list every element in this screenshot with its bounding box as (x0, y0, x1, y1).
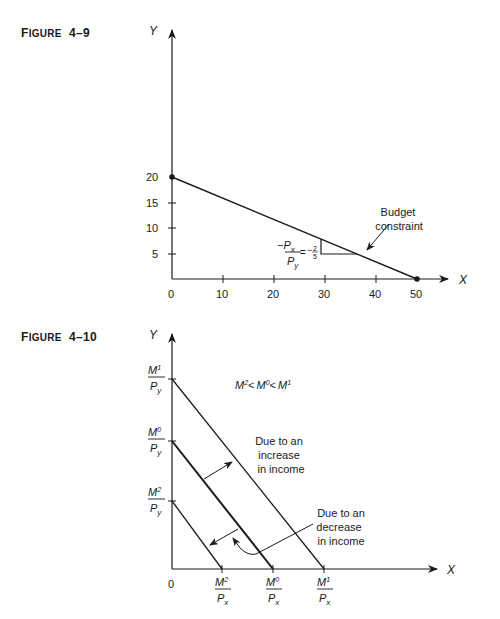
figures-canvas: Y X 20 15 10 5 0 10 20 30 40 50 (0, 0, 500, 619)
y-tick-10: 10 (146, 222, 158, 234)
origin-label: 0 (168, 578, 174, 590)
svg-text:Px: Px (319, 592, 331, 607)
budget-annotation-line1: Budget (381, 206, 416, 218)
svg-text:Py: Py (287, 255, 299, 270)
svg-text:2: 2 (313, 245, 317, 252)
svg-text:M0: M0 (148, 426, 161, 438)
svg-text:Py: Py (150, 442, 162, 457)
y-tick-15: 15 (146, 197, 158, 209)
svg-text:M1: M1 (317, 576, 330, 588)
budget-annotation-line2: constraint (375, 220, 423, 232)
svg-text:Py: Py (150, 502, 162, 517)
svg-text:=: = (300, 247, 306, 258)
svg-text:M1: M1 (148, 364, 161, 376)
x-intercept-m2: M2 Px (215, 576, 231, 607)
y-intercept-dot (169, 174, 175, 180)
budget-line-m2 (172, 501, 222, 569)
x-intercept-dot (414, 276, 420, 282)
y-intercept-m0: M0 Py (148, 426, 165, 457)
y-axis-label: Y (149, 24, 158, 38)
x-axis-label: X (458, 273, 468, 287)
figure-4-9-chart: Y X 20 15 10 5 0 10 20 30 40 50 (146, 24, 468, 300)
x-intercept-m0: M0 Px (266, 576, 282, 607)
increase-annotation-line1: Due to an (255, 435, 303, 447)
decrease-shift-arrow (210, 529, 238, 545)
y-tick-5: 5 (152, 248, 158, 260)
y-intercept-m1: M1 Py (148, 364, 165, 395)
svg-text:M2: M2 (215, 576, 228, 588)
svg-text:Py: Py (150, 380, 162, 395)
y-intercept-m2: M2 Py (148, 486, 165, 517)
svg-text:Px: Px (217, 592, 229, 607)
x-tick-40: 40 (369, 288, 381, 300)
svg-text:M0: M0 (266, 576, 279, 588)
svg-text:−: − (307, 245, 312, 255)
x-tick-0: 0 (168, 288, 174, 300)
x-tick-30: 30 (318, 288, 330, 300)
x-tick-50: 50 (410, 288, 422, 300)
svg-text:5: 5 (313, 253, 317, 260)
x-tick-20: 20 (267, 288, 279, 300)
y-axis-label: Y (149, 328, 158, 342)
decrease-annotation-line3: in income (317, 535, 364, 547)
decrease-annotation-line2: decrease (316, 521, 361, 533)
increase-shift-arrow (204, 462, 232, 479)
x-intercept-m1: M1 Px (317, 576, 333, 607)
y-tick-20: 20 (146, 171, 158, 183)
slope-label: −Px Py = − 2 5 (277, 239, 318, 270)
x-tick-10: 10 (216, 288, 228, 300)
x-axis-label: X (446, 563, 456, 577)
svg-text:Px: Px (268, 592, 280, 607)
income-inequality: M2<M0<M1 (235, 379, 291, 391)
svg-text:M2: M2 (148, 486, 161, 498)
decrease-callout-arrow (233, 524, 313, 554)
decrease-annotation-line1: Due to an (317, 507, 365, 519)
increase-annotation-line3: in income (257, 463, 304, 475)
increase-annotation-line2: increase (258, 449, 300, 461)
figure-4-10-chart: Y X 0 M1 Py M0 Py (148, 328, 456, 607)
